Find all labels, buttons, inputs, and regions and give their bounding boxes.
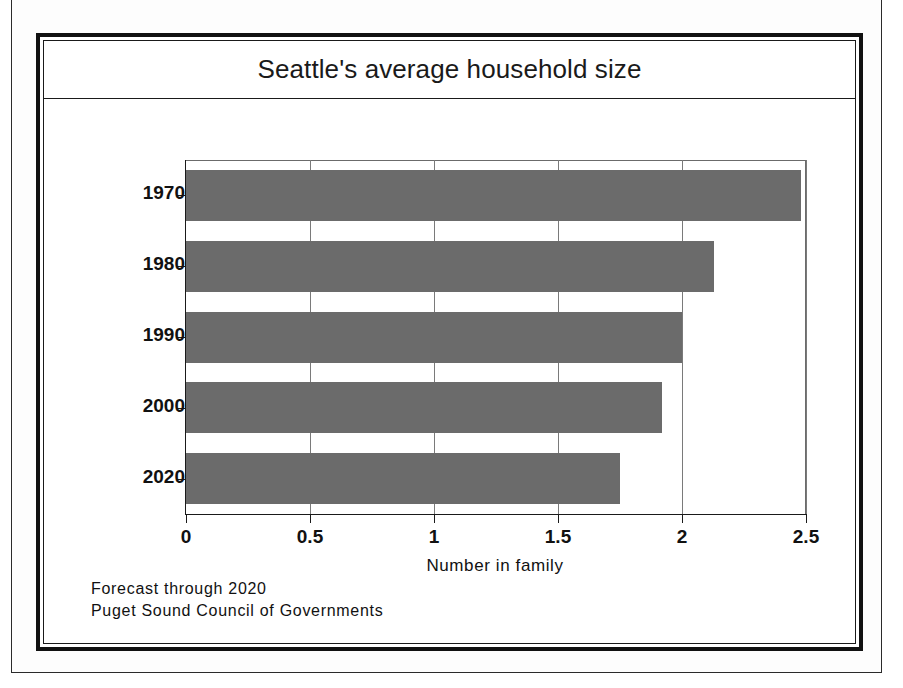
x-tick-1.5	[558, 514, 559, 523]
bar-1970	[186, 170, 801, 221]
x-tick-2	[682, 514, 683, 523]
y-axis-label-2020: 2020	[75, 466, 185, 488]
x-tick-0	[186, 514, 187, 523]
x-axis-label: 2.5	[766, 526, 846, 548]
x-axis-label: 0	[146, 526, 226, 548]
x-tick-1	[434, 514, 435, 523]
x-axis-label: 1	[394, 526, 474, 548]
x-tick-2.5	[806, 514, 807, 523]
footnote-line-2: Puget Sound Council of Governments	[91, 600, 383, 623]
y-axis-label-1970: 1970	[75, 182, 185, 204]
chart-title: Seattle's average household size	[258, 54, 642, 85]
chart-title-band: Seattle's average household size	[44, 41, 855, 99]
bar-1980	[186, 241, 714, 292]
scanned-page: Seattle's average household size 1970198…	[0, 0, 903, 688]
y-axis-label-2000: 2000	[75, 395, 185, 417]
y-axis-label-1980: 1980	[75, 253, 185, 275]
plot-area: 19701980199020002020 00.511.522.5	[185, 160, 806, 515]
chart-frame: Seattle's average household size 1970198…	[36, 33, 863, 651]
chart-inner-frame: Seattle's average household size 1970198…	[43, 40, 856, 644]
y-axis-label-1990: 1990	[75, 324, 185, 346]
chart-footnotes: Forecast through 2020 Puget Sound Counci…	[91, 578, 383, 623]
x-axis-label: 1.5	[518, 526, 598, 548]
x-axis-label: 2	[642, 526, 722, 548]
x-tick-0.5	[310, 514, 311, 523]
bar-1990	[186, 312, 682, 363]
bar-2000	[186, 382, 662, 433]
x-axis-label: 0.5	[270, 526, 350, 548]
x-axis-title: Number in family	[185, 556, 805, 576]
bar-2020	[186, 453, 620, 504]
footnote-line-1: Forecast through 2020	[91, 578, 383, 601]
plot-top-edge	[186, 160, 806, 161]
gridline-x-2.5	[806, 160, 807, 514]
